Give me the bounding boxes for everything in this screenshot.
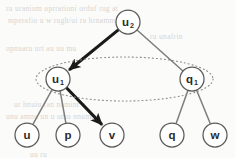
node-subscript: 2 [130, 21, 134, 30]
node-u2[interactable]: u2 [116, 10, 140, 34]
node-subscript: 1 [194, 78, 198, 87]
diagram-canvas: u2u1q1upvqw [0, 0, 235, 158]
node-p[interactable]: p [56, 123, 80, 147]
edge-q1-to-w [197, 91, 211, 124]
node-u1[interactable]: u1 [46, 67, 70, 91]
node-label: v [109, 129, 116, 141]
node-q[interactable]: q [160, 123, 184, 147]
edge-u1-to-v [67, 88, 102, 124]
edge-u2-to-u1 [70, 30, 118, 69]
edge-u1-to-p [60, 91, 66, 122]
node-label: q [186, 73, 193, 85]
node-w[interactable]: w [203, 123, 227, 147]
node-label: u [52, 73, 59, 85]
node-v[interactable]: v [100, 123, 124, 147]
node-label: p [64, 129, 71, 141]
node-label: q [168, 129, 175, 141]
node-subscript: 1 [60, 78, 64, 87]
node-u[interactable]: u [15, 123, 39, 147]
node-label: u [122, 16, 129, 28]
edge-u2-to-q1 [137, 30, 182, 70]
graph-diagram-figure: ru uranium oprrationi orduf rug atmperaf… [0, 0, 235, 158]
edge-u1-to-u [33, 90, 52, 124]
node-q1[interactable]: q1 [180, 67, 204, 91]
node-layer: u2u1q1upvqw [15, 10, 227, 147]
node-label: w [210, 129, 220, 141]
node-label: u [23, 129, 30, 141]
